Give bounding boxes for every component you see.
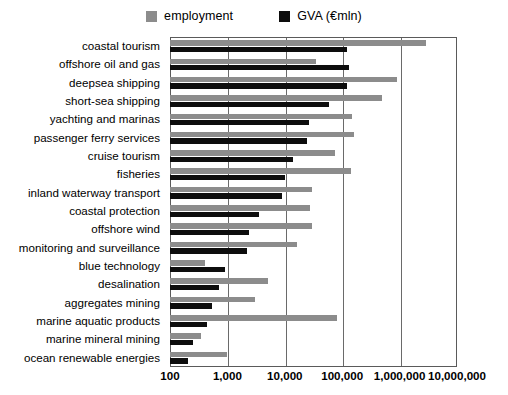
- bar-employment: [170, 114, 352, 119]
- y-axis-label: cruise tourism: [0, 147, 165, 165]
- y-axis-label: yachting and marinas: [0, 110, 165, 128]
- bar-employment: [170, 333, 201, 338]
- bar-row: [170, 55, 457, 73]
- x-axis-tick-label: 1,000,000: [374, 369, 426, 383]
- legend-item-gva: GVA (€mln): [279, 10, 362, 22]
- bar-gva: [170, 322, 207, 327]
- bar-row: [170, 184, 457, 202]
- y-axis-label: coastal tourism: [0, 37, 165, 55]
- bar-gva: [170, 212, 259, 217]
- bar-employment: [170, 168, 351, 173]
- bar-gva: [170, 120, 309, 125]
- bar-employment: [170, 77, 397, 82]
- bar-employment: [170, 223, 312, 228]
- bar-employment: [170, 278, 268, 283]
- bar-gva: [170, 303, 212, 308]
- bar-employment: [170, 297, 255, 302]
- chart-legend: employment GVA (€mln): [0, 10, 508, 22]
- y-axis-label: aggregates mining: [0, 294, 165, 312]
- legend-item-employment: employment: [146, 10, 233, 22]
- y-axis-label: monitoring and surveillance: [0, 239, 165, 257]
- y-axis-labels: coastal tourismoffshore oil and gasdeeps…: [0, 37, 165, 367]
- bar-gva: [170, 193, 282, 198]
- bar-row: [170, 220, 457, 238]
- y-axis-label: desalination: [0, 275, 165, 293]
- y-axis-label: offshore wind: [0, 220, 165, 238]
- bar-gva: [170, 47, 347, 52]
- y-axis-label: marine aquatic products: [0, 312, 165, 330]
- bar-employment: [170, 59, 316, 64]
- x-axis: 1001,00010,000100,0001,000,00010,000,000: [0, 369, 508, 391]
- bar-gva: [170, 248, 247, 253]
- bar-row: [170, 147, 457, 165]
- bar-row: [170, 110, 457, 128]
- legend-swatch-icon-gva: [279, 11, 290, 22]
- bar-employment: [170, 315, 337, 320]
- bar-gva: [170, 65, 349, 70]
- bar-row: [170, 202, 457, 220]
- y-axis-label: fisheries: [0, 165, 165, 183]
- bar-gva: [170, 230, 249, 235]
- bar-gva: [170, 267, 225, 272]
- bar-employment: [170, 40, 426, 45]
- bar-row: [170, 257, 457, 275]
- x-axis-tick-label: 100,000: [321, 369, 363, 383]
- bar-row: [170, 294, 457, 312]
- bar-row: [170, 92, 457, 110]
- bar-employment: [170, 95, 382, 100]
- bar-gva: [170, 358, 188, 363]
- bar-gva: [170, 285, 219, 290]
- bar-row: [170, 129, 457, 147]
- y-axis-label: coastal protection: [0, 202, 165, 220]
- bar-row: [170, 74, 457, 92]
- legend-label-employment: employment: [164, 10, 233, 22]
- bar-row: [170, 37, 457, 55]
- bar-row: [170, 165, 457, 183]
- bar-employment: [170, 242, 297, 247]
- bar-row: [170, 275, 457, 293]
- bar-employment: [170, 150, 335, 155]
- bar-employment: [170, 260, 205, 265]
- bar-employment: [170, 205, 310, 210]
- chart-container: employment GVA (€mln) coastal tourismoff…: [0, 0, 508, 395]
- bar-row: [170, 239, 457, 257]
- y-axis-label: short-sea shipping: [0, 92, 165, 110]
- bar-gva: [170, 340, 193, 345]
- legend-label-gva: GVA (€mln): [297, 10, 362, 22]
- bar-rows: [170, 37, 457, 367]
- x-axis-tick-label: 10,000,000: [428, 369, 486, 383]
- bar-gva: [170, 138, 307, 143]
- legend-swatch-icon-employment: [146, 11, 157, 22]
- y-axis-label: blue technology: [0, 257, 165, 275]
- bar-employment: [170, 352, 227, 357]
- x-axis-tick-label: 10,000: [267, 369, 302, 383]
- bar-employment: [170, 132, 354, 137]
- x-axis-tick-label: 100: [160, 369, 179, 383]
- y-axis-label: marine mineral mining: [0, 330, 165, 348]
- y-axis-label: deepsea shipping: [0, 74, 165, 92]
- bar-row: [170, 330, 457, 348]
- x-axis-tick-label: 1,000: [213, 369, 242, 383]
- bar-row: [170, 349, 457, 367]
- bar-gva: [170, 175, 285, 180]
- y-axis-label: inland waterway transport: [0, 184, 165, 202]
- bar-gva: [170, 157, 293, 162]
- bar-employment: [170, 187, 312, 192]
- bar-gva: [170, 102, 329, 107]
- bar-gva: [170, 83, 347, 88]
- y-axis-label: passenger ferry services: [0, 129, 165, 147]
- y-axis-label: offshore oil and gas: [0, 55, 165, 73]
- bar-row: [170, 312, 457, 330]
- y-axis-label: ocean renewable energies: [0, 349, 165, 367]
